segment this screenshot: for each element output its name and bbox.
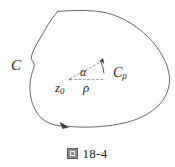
label-angle-alpha: α — [80, 66, 86, 78]
label-c-rho-subscript: ρ — [122, 71, 127, 81]
outer-contour-arrowhead — [60, 122, 69, 129]
contour-diagram — [0, 0, 175, 140]
small-arc-arrowhead — [100, 59, 104, 64]
label-radius-rho: ρ — [83, 81, 89, 94]
figure-18-4: C Cρ z0 ρ α 18-4 — [0, 0, 175, 167]
label-c-rho-base: C — [113, 65, 122, 80]
figure-caption: 18-4 — [0, 140, 175, 167]
point-z0-marker — [69, 79, 71, 81]
caption-figure-number: 18-4 — [82, 146, 107, 162]
label-point-z0: z0 — [55, 81, 64, 96]
label-small-contour-c-rho: Cρ — [113, 66, 127, 82]
label-outer-contour-c: C — [11, 58, 21, 73]
label-z0-subscript: 0 — [60, 86, 64, 96]
outer-contour-path — [30, 10, 170, 127]
caption-cjk-glyph-box — [67, 148, 78, 159]
